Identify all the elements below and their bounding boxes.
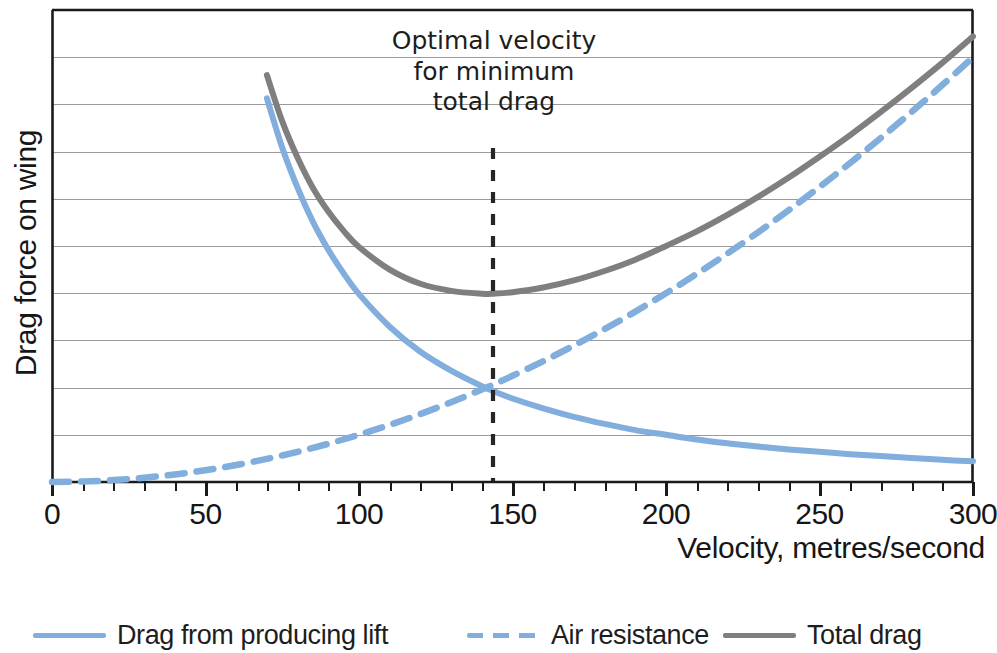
legend-label: Air resistance: [551, 620, 709, 651]
chart-legend: Drag from producing liftAir resistanceTo…: [0, 618, 993, 653]
legend-item[interactable]: Air resistance: [467, 618, 709, 653]
series-line-total-drag: [267, 36, 973, 294]
series-line-air-resistance: [52, 57, 973, 482]
x-axis-ticks: [53, 482, 974, 496]
legend-item[interactable]: Drag from producing lift: [33, 618, 388, 653]
y-axis-label: Drag force on wing: [9, 88, 43, 418]
legend-swatch-solid-line-icon: [723, 633, 796, 638]
x-tick-label: 100: [335, 497, 384, 531]
x-tick-label: 150: [488, 497, 537, 531]
legend-swatch-dashed-line-icon: [467, 633, 540, 638]
legend-swatch-solid-line-icon: [33, 633, 106, 638]
x-tick-label: 200: [642, 497, 691, 531]
legend-item[interactable]: Total drag: [723, 618, 922, 653]
annotation-line-1: Optimal velocity: [378, 26, 610, 57]
x-tick-label: 50: [189, 497, 221, 531]
x-tick-label: 250: [795, 497, 844, 531]
annotation-line-3: total drag: [378, 87, 610, 118]
legend-label: Drag from producing lift: [117, 620, 388, 651]
x-tick-label: 0: [44, 497, 60, 531]
legend-label: Total drag: [807, 620, 922, 651]
annotation-line-2: for minimum: [378, 57, 610, 88]
optimal-velocity-annotation: Optimal velocity for minimum total drag: [378, 26, 610, 118]
x-tick-label: 300: [949, 497, 997, 531]
x-axis-label: Velocity, metres/second: [677, 531, 985, 565]
